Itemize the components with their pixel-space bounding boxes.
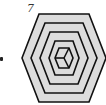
concentric-hexagon-diagram (0, 0, 106, 105)
